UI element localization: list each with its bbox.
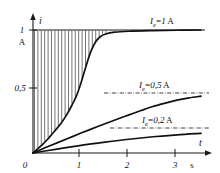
chart-svg: i t 1 A 0,5 0 1 2 3 s Ie=1A Ie=0,5A Ie=0… (0, 0, 220, 173)
x-axis-unit: s (190, 160, 194, 170)
series-02a-unit: A (166, 115, 173, 125)
origin-label: 0 (23, 160, 28, 170)
y-tick-label-05: 0,5 (14, 83, 26, 93)
hatch-region (35, 31, 106, 151)
y-axis-unit: A (19, 37, 26, 47)
series-02a-value: 0,2 (153, 115, 165, 125)
y-tick-label-1: 1 (20, 25, 25, 35)
x-tick-label-1: 1 (77, 160, 82, 170)
series-05a-unit: A (163, 80, 170, 90)
series-label-1a: Ie=1A (149, 16, 174, 29)
x-axis-label: t (199, 137, 202, 148)
x-axis-arrowhead (205, 150, 212, 155)
series-1a-value: 1 (161, 16, 166, 26)
series-1a-unit: A (167, 16, 174, 26)
series-label-05a: Ie=0,5A (138, 80, 170, 93)
svg-text:Ie=0,5A: Ie=0,5A (138, 80, 170, 93)
series-05a-value: 0,5 (150, 80, 162, 90)
figure-canvas: i t 1 A 0,5 0 1 2 3 s Ie=1A Ie=0,5A Ie=0… (0, 0, 220, 173)
svg-text:Ie=1A: Ie=1A (149, 16, 174, 29)
series-label-02a: Ie=0,2A (141, 115, 173, 128)
x-tick-label-2: 2 (125, 160, 130, 170)
svg-text:Ie=0,2A: Ie=0,2A (141, 115, 173, 128)
y-axis-label: i (39, 15, 42, 26)
y-axis-arrowhead (30, 13, 35, 20)
x-tick-label-3: 3 (172, 160, 178, 170)
